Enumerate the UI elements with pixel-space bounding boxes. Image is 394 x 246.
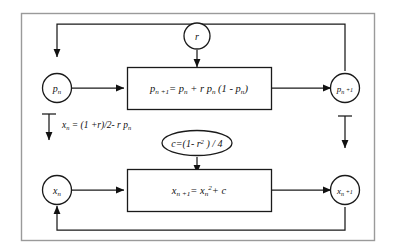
node-r-label: r xyxy=(195,31,199,42)
c-definition-label: c=(1- r2 ) / 4 xyxy=(171,138,222,150)
diagram-canvas: pn pn +1 xn xn +1 r c=(1- r2 ) / 4 pn +1… xyxy=(0,0,394,246)
change-of-variable-label: xn = (1 +r)/2- r pn xyxy=(61,120,131,131)
